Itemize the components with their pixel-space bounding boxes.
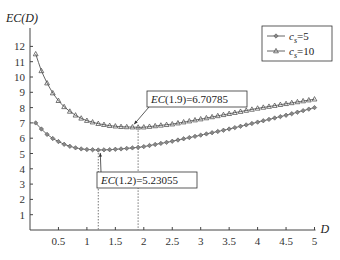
y-tick-label: 1 <box>20 209 26 221</box>
x-axis-label: D <box>320 222 330 236</box>
diamond-marker-icon <box>147 143 151 147</box>
diamond-marker-icon <box>79 147 83 151</box>
diamond-marker-icon <box>90 148 94 152</box>
diamond-marker-icon <box>153 142 157 146</box>
diamond-marker-icon <box>255 120 259 124</box>
y-tick-label: 2 <box>20 193 26 205</box>
diamond-marker-icon <box>142 144 146 148</box>
diamond-marker-icon <box>221 128 225 132</box>
diamond-marker-icon <box>181 137 185 141</box>
diamond-marker-icon <box>284 113 288 117</box>
diamond-marker-icon <box>170 139 174 143</box>
diamond-marker-icon <box>238 124 242 128</box>
diamond-marker-icon <box>295 110 299 114</box>
diamond-marker-icon <box>204 132 208 136</box>
y-tick-label: 11 <box>14 56 25 68</box>
triangle-marker-icon <box>312 97 317 101</box>
y-tick-label: 8 <box>20 102 26 114</box>
diamond-marker-icon <box>102 148 106 152</box>
legend: cs=5cs=10 <box>262 26 332 61</box>
y-tick-label: 5 <box>20 148 26 160</box>
diamond-marker-icon <box>130 146 134 150</box>
y-tick-label: 4 <box>20 163 26 175</box>
y-axis-label: EC(D) <box>5 11 38 25</box>
diamond-marker-icon <box>267 117 271 121</box>
series-diamond <box>33 105 316 152</box>
diamond-marker-icon <box>199 133 203 137</box>
diamond-marker-icon <box>290 112 294 116</box>
diamond-marker-icon <box>68 144 72 148</box>
y-tick-label: 10 <box>14 71 26 83</box>
diamond-marker-icon <box>244 123 248 127</box>
y-tick-label: 7 <box>20 117 26 129</box>
diamond-marker-icon <box>301 108 305 112</box>
series-line <box>36 108 315 150</box>
annotation-box: EC(1.9)=6.70785 <box>134 91 247 124</box>
diamond-marker-icon <box>85 147 89 151</box>
diamond-marker-icon <box>176 138 180 142</box>
diamond-marker-icon <box>119 147 123 151</box>
annotation-text: EC(1.2)=5.23055 <box>100 174 179 187</box>
diamond-marker-icon <box>250 121 254 125</box>
diamond-marker-icon <box>164 140 168 144</box>
y-tick-label: 9 <box>20 86 26 98</box>
diamond-marker-icon <box>261 119 265 123</box>
diamond-marker-icon <box>210 130 214 134</box>
diamond-marker-icon <box>278 114 282 118</box>
x-tick-label: 3 <box>198 235 204 247</box>
x-tick-label: 0.5 <box>52 235 66 247</box>
x-tick-label: 4 <box>255 235 261 247</box>
diamond-marker-icon <box>73 146 77 150</box>
annotation-text: EC(1.9)=6.70785 <box>150 93 229 106</box>
diamond-marker-icon <box>136 145 140 149</box>
diamond-marker-icon <box>56 139 60 143</box>
diamond-marker-icon <box>312 105 316 109</box>
y-tick-label: 6 <box>20 132 26 144</box>
diamond-marker-icon <box>227 127 231 131</box>
diamond-marker-icon <box>159 141 163 145</box>
x-tick-label: 2 <box>141 235 147 247</box>
x-tick-label: 4.5 <box>279 235 293 247</box>
arrowhead-icon <box>99 153 102 157</box>
diamond-marker-icon <box>233 125 237 129</box>
diamond-marker-icon <box>272 116 276 120</box>
x-tick-label: 5 <box>312 235 318 247</box>
diamond-marker-icon <box>113 147 117 151</box>
x-tick-label: 2.5 <box>165 235 179 247</box>
diamond-marker-icon <box>62 142 66 146</box>
diamond-marker-icon <box>96 148 100 152</box>
diamond-marker-icon <box>307 107 311 111</box>
diamond-marker-icon <box>216 129 220 133</box>
x-tick-label: 1.5 <box>108 235 122 247</box>
x-tick-label: 1 <box>84 235 90 247</box>
diamond-marker-icon <box>107 147 111 151</box>
y-tick-label: 12 <box>14 40 25 52</box>
chart-canvas: 0.511.522.533.544.55123456789101112EC(D)… <box>0 0 340 260</box>
diamond-marker-icon <box>125 146 129 150</box>
annotation-box: EC(1.2)=5.23055 <box>97 153 197 188</box>
diamond-marker-icon <box>187 135 191 139</box>
y-tick-label: 3 <box>20 178 26 190</box>
diamond-marker-icon <box>193 134 197 138</box>
x-tick-label: 3.5 <box>222 235 236 247</box>
